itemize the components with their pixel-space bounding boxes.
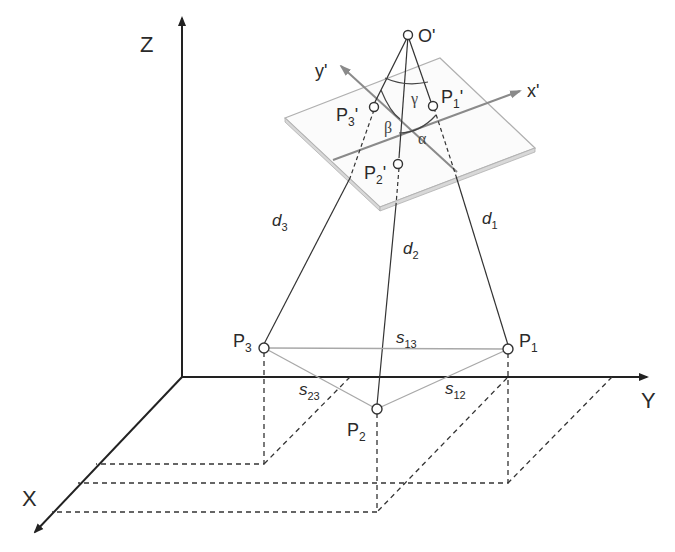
beta-label: β (384, 119, 392, 137)
p2-label: P2 (347, 420, 366, 444)
d2-label: d2 (403, 239, 419, 261)
x-prime-label: x' (527, 81, 539, 101)
gamma-label: γ (410, 90, 418, 108)
point-P1 (503, 344, 513, 354)
point-P1-prime (429, 102, 438, 111)
point-P3 (259, 343, 269, 353)
point-O-prime (404, 31, 413, 40)
z-axis-label: Z (140, 32, 153, 57)
s23-label: s23 (299, 380, 320, 402)
s12-label: s12 (445, 379, 466, 401)
p1-label: P1 (519, 331, 538, 355)
alpha-label: α (418, 130, 427, 147)
point-P2-prime (394, 160, 403, 169)
resection-diagram: Z Y X x' y' O' P1' P2' P3' P1 P2 P3 d1 d… (0, 0, 675, 552)
side-s13 (268, 348, 504, 349)
y-prime-label: y' (315, 61, 327, 81)
d3-label: d3 (272, 211, 288, 233)
p3-label: P3 (233, 331, 252, 355)
world-axes (35, 18, 647, 532)
y-axis-label: Y (641, 388, 656, 413)
d1-label: d1 (482, 209, 498, 231)
o-prime-label: O' (418, 26, 435, 46)
x-axis-label: X (22, 486, 37, 511)
side-s23 (268, 350, 373, 407)
x-axis (35, 377, 182, 532)
side-s12 (381, 351, 504, 407)
point-P3-prime (370, 103, 379, 112)
s13-label: s13 (396, 328, 417, 350)
point-P2 (372, 404, 382, 414)
